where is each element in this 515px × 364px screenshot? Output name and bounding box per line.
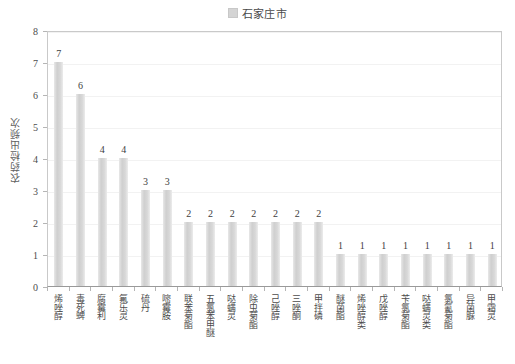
bar-item[interactable]: 2 [271, 30, 280, 286]
y-tick-label: 0 [0, 282, 38, 293]
bar-rect[interactable] [293, 222, 302, 286]
bar-rect[interactable] [358, 254, 367, 286]
x-tick-mark [220, 287, 221, 291]
x-tick-mark [480, 287, 481, 291]
x-tick-mark [459, 287, 460, 291]
bar-rect[interactable] [98, 158, 107, 286]
y-tick-label: 4 [0, 154, 38, 165]
bar-rect[interactable] [163, 190, 172, 286]
bar-value-label: 1 [403, 240, 408, 251]
bar-value-label: 4 [121, 144, 126, 155]
x-tick-mark [264, 287, 265, 291]
bar-rect[interactable] [271, 222, 280, 286]
x-axis-label: 戊唑醇 [378, 294, 387, 320]
bar-item[interactable]: 2 [228, 30, 237, 286]
bar-item[interactable]: 1 [466, 30, 475, 286]
bar-item[interactable]: 1 [336, 30, 345, 286]
x-axis-label: 毒死蜱 [75, 294, 84, 320]
x-axis-label: 异菌脲 [465, 294, 474, 320]
plot-area: 764433222222211111111 [47, 31, 502, 287]
x-axis-label: 甲拌磷 [313, 294, 322, 320]
bar-rect[interactable] [336, 254, 345, 286]
bar-item[interactable]: 4 [119, 30, 128, 286]
x-tick-mark [69, 287, 70, 291]
x-axis-label: 烯唑醇 [53, 294, 62, 320]
y-tick-label: 5 [0, 122, 38, 133]
bar-value-label: 2 [208, 208, 213, 219]
bar-rect[interactable] [76, 94, 85, 286]
x-tick-mark [47, 287, 48, 291]
bar-rect[interactable] [119, 158, 128, 286]
bar-item[interactable]: 1 [401, 30, 410, 286]
x-tick-mark [307, 287, 308, 291]
bar-value-label: 2 [230, 208, 235, 219]
bar-item[interactable]: 2 [184, 30, 193, 286]
bar-item[interactable]: 1 [488, 30, 497, 286]
bar-value-label: 1 [446, 240, 451, 251]
x-axis-label: 氟乐灵 [118, 294, 127, 320]
bar-item[interactable]: 1 [423, 30, 432, 286]
bar-rect[interactable] [314, 222, 323, 286]
x-tick-mark [437, 287, 438, 291]
bar-rect[interactable] [488, 254, 497, 286]
bar-item[interactable]: 2 [206, 30, 215, 286]
x-axis-label: 硫丹 [140, 294, 149, 311]
y-tick-label: 7 [0, 58, 38, 69]
y-tick-label: 3 [0, 186, 38, 197]
bar-value-label: 1 [360, 240, 365, 251]
bar-value-label: 2 [273, 208, 278, 219]
bar-item[interactable]: 3 [163, 30, 172, 286]
bar-rect[interactable] [141, 190, 150, 286]
bar-rect[interactable] [444, 254, 453, 286]
bar-value-label: 2 [295, 208, 300, 219]
x-tick-mark [90, 287, 91, 291]
bar-item[interactable]: 3 [141, 30, 150, 286]
bar-item[interactable]: 1 [358, 30, 367, 286]
bar-item[interactable]: 2 [249, 30, 258, 286]
x-axis-label: 哒螨灵 [227, 294, 236, 320]
x-tick-mark [199, 287, 200, 291]
bar-value-label: 3 [143, 176, 148, 187]
bar-item[interactable]: 2 [293, 30, 302, 286]
bar-item[interactable]: 1 [444, 30, 453, 286]
bar-item[interactable]: 6 [76, 30, 85, 286]
bar-rect[interactable] [184, 222, 193, 286]
x-tick-mark [285, 287, 286, 291]
x-axis-label: 甲霜灵 [487, 294, 496, 320]
x-tick-mark [415, 287, 416, 291]
x-tick-mark [112, 287, 113, 291]
bar-value-label: 1 [468, 240, 473, 251]
bar-rect[interactable] [379, 254, 388, 286]
x-axis-label: 烯唑醇类 [357, 294, 366, 328]
bar-item[interactable]: 2 [314, 30, 323, 286]
x-axis-label: 哒螨灵类 [422, 294, 431, 328]
bar-rect[interactable] [228, 222, 237, 286]
bar-rect[interactable] [54, 62, 63, 286]
y-tick-label: 2 [0, 218, 38, 229]
bar-value-label: 2 [186, 208, 191, 219]
bar-value-label: 7 [56, 48, 61, 59]
bar-value-label: 6 [78, 80, 83, 91]
bar-value-label: 2 [251, 208, 256, 219]
bar-value-label: 1 [338, 240, 343, 251]
x-axis-label: 腐霉利 [97, 294, 106, 320]
bar-rect[interactable] [423, 254, 432, 286]
bar-rect[interactable] [206, 222, 215, 286]
bar-item[interactable]: 1 [379, 30, 388, 286]
bar-rect[interactable] [249, 222, 258, 286]
x-tick-mark [242, 287, 243, 291]
y-tick-label: 8 [0, 26, 38, 37]
bar-value-label: 2 [316, 208, 321, 219]
bar-rect[interactable] [466, 254, 475, 286]
bar-item[interactable]: 4 [98, 30, 107, 286]
bar-value-label: 4 [100, 144, 105, 155]
x-axis-label: 嘧霉胺 [162, 294, 171, 320]
chart-legend: 石家庄市 [0, 4, 515, 22]
x-tick-mark [177, 287, 178, 291]
x-axis-label: 氯氰菊酯 [443, 294, 452, 328]
bar-chart: 石家庄市 农药检出频次 012345678 764433222222211111… [0, 0, 515, 364]
bar-item[interactable]: 7 [54, 30, 63, 286]
bar-value-label: 1 [490, 240, 495, 251]
bar-rect[interactable] [401, 254, 410, 286]
bar-value-label: 3 [165, 176, 170, 187]
